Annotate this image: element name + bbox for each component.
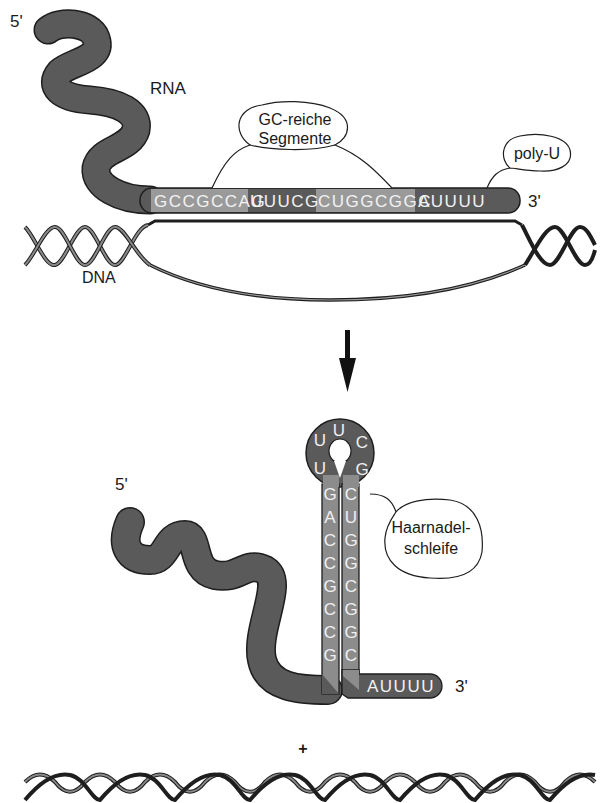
three-prime-label-bottom: 3' xyxy=(455,677,468,696)
svg-text:G: G xyxy=(344,554,357,573)
down-arrow xyxy=(339,330,356,392)
dna-helix-right xyxy=(522,225,595,265)
plus-sign: + xyxy=(298,740,307,757)
dna-helix-left xyxy=(25,225,150,265)
loop-base-5: G xyxy=(355,460,368,479)
loop-base-2: U xyxy=(333,421,345,440)
svg-text:C: C xyxy=(324,623,336,642)
dna-coding-strand xyxy=(150,265,525,300)
polyu-callout: poly-U xyxy=(487,135,571,188)
loop-base-1: U xyxy=(314,431,326,450)
polyu-callout-text: poly-U xyxy=(514,145,560,162)
svg-text:C: C xyxy=(345,577,357,596)
svg-text:G: G xyxy=(344,600,357,619)
tail-sequence: AUUUU xyxy=(367,677,435,696)
rna-label: RNA xyxy=(150,79,187,98)
svg-text:G: G xyxy=(344,531,357,550)
bottom-panel: 5' U U U C G G A C C G C C G C xyxy=(25,419,595,800)
loop-base-4: C xyxy=(356,433,368,452)
transcription-termination-diagram: 5' RNA GCCGCCAG UUUCG CUGGCGGC AUUUU 3' … xyxy=(0,0,600,803)
svg-text:G: G xyxy=(323,485,336,504)
loop-base-3: U xyxy=(314,459,326,478)
hairpin-callout: Haarnadel- schleife xyxy=(370,494,482,578)
gc-callout-line2: Segmente xyxy=(259,130,332,147)
svg-text:C: C xyxy=(345,646,357,665)
three-prime-label-top: 3' xyxy=(528,192,541,211)
svg-text:G: G xyxy=(323,577,336,596)
svg-text:G: G xyxy=(323,646,336,665)
svg-text:U: U xyxy=(345,508,357,527)
five-prime-label-top: 5' xyxy=(10,12,23,31)
gc-callout-line1: GC-reiche xyxy=(259,111,332,128)
dna-template-strand xyxy=(148,221,522,225)
svg-text:C: C xyxy=(324,600,336,619)
top-panel: 5' RNA GCCGCCAG UUUCG CUGGCGGC AUUUU 3' … xyxy=(10,12,595,300)
hairpin-callout-line1: Haarnadel- xyxy=(391,519,470,536)
gc-rich-callout: GC-reiche Segmente xyxy=(212,102,392,188)
five-prime-label-bottom: 5' xyxy=(115,475,128,494)
svg-text:C: C xyxy=(324,554,336,573)
released-dna-helix xyxy=(25,774,595,800)
svg-text:G: G xyxy=(344,623,357,642)
hairpin-callout-line2: schleife xyxy=(404,540,458,557)
dna-label: DNA xyxy=(82,269,116,286)
svg-text:C: C xyxy=(345,485,357,504)
svg-text:C: C xyxy=(324,531,336,550)
svg-text:A: A xyxy=(324,508,336,527)
seq-gc-2: CUGGCGGC xyxy=(318,192,432,211)
seq-polyu: AUUUU xyxy=(418,192,486,211)
seq-spacer: UUUCG xyxy=(250,192,320,211)
